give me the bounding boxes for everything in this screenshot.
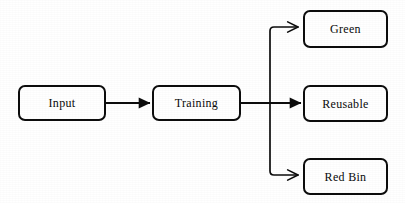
node-green[interactable]: Green <box>303 10 388 48</box>
diagram-canvas: Input Training Green Reusable Red Bin <box>0 0 405 203</box>
node-training[interactable]: Training <box>152 85 241 121</box>
node-training-label: Training <box>175 97 218 109</box>
node-input[interactable]: Input <box>18 85 106 121</box>
edge-training-to-redbin <box>270 103 298 175</box>
node-reusable-label: Reusable <box>322 98 368 110</box>
edge-training-to-green <box>270 27 298 103</box>
node-green-label: Green <box>330 23 361 35</box>
node-redbin-label: Red Bin <box>325 171 367 183</box>
node-reusable[interactable]: Reusable <box>303 85 388 122</box>
node-input-label: Input <box>49 97 76 109</box>
node-redbin[interactable]: Red Bin <box>303 158 388 195</box>
